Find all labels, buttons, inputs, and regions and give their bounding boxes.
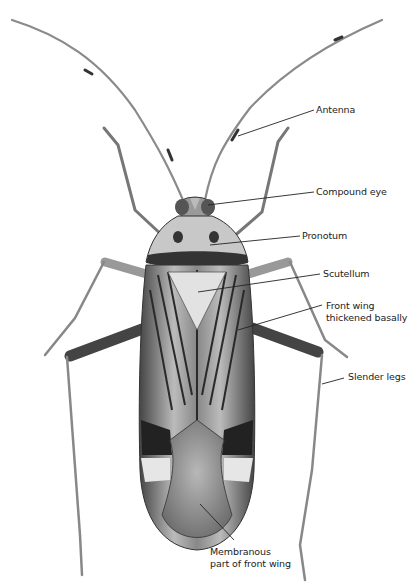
label-scutellum: Scutellum — [323, 268, 370, 280]
label-membranous: Membranous part of front wing — [210, 546, 291, 570]
label-front-wing-line1: Front wing — [326, 300, 407, 312]
label-pronotum: Pronotum — [302, 230, 347, 242]
label-antenna: Antenna — [316, 104, 355, 116]
label-membranous-line1: Membranous — [210, 546, 291, 558]
label-front-wing-line2: thickened basally — [326, 312, 407, 324]
label-slender-legs: Slender legs — [348, 371, 406, 383]
insect-illustration — [0, 0, 411, 588]
label-front-wing: Front wing thickened basally — [326, 300, 407, 324]
membrane — [162, 420, 232, 538]
label-membranous-line2: part of front wing — [210, 558, 291, 570]
label-compound-eye: Compound eye — [316, 186, 387, 198]
